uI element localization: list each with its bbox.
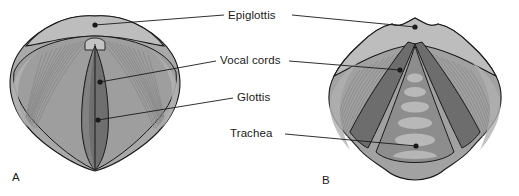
leader-dot-glottis-a (95, 117, 100, 122)
tracheal-ring (398, 117, 432, 129)
label-trachea: Trachea (230, 128, 272, 140)
leader-dot-trachea-b (413, 143, 418, 148)
leader-dot-epiglottis-a (92, 22, 97, 27)
panel-label-b: B (322, 174, 330, 186)
tracheal-ring (401, 102, 429, 113)
tracheal-ring (404, 87, 426, 97)
panel-b-larynx (285, 15, 501, 180)
tracheal-ring (407, 74, 423, 83)
label-glottis: Glottis (237, 92, 270, 104)
panel-a-larynx (10, 15, 233, 171)
leader-epiglottis-b (292, 15, 415, 27)
leader-dot-vocalcords-a (97, 79, 102, 84)
larynx-figure: Epiglottis Vocal cords Glottis Trachea A… (0, 0, 519, 196)
leader-dot-epiglottis-b (412, 24, 417, 29)
label-vocal-cords: Vocal cords (220, 55, 281, 67)
label-epiglottis: Epiglottis (228, 10, 276, 22)
panel-label-a: A (12, 171, 20, 183)
leader-dot-vocalcords-b (397, 67, 402, 72)
